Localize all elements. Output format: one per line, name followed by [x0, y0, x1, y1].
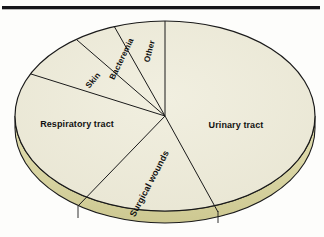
scanned-page: Urinary tract Surgical wounds Respirator… [0, 0, 324, 237]
slice-label-urinary-tract: Urinary tract [209, 120, 264, 130]
pie-chart-svg: Urinary tract Surgical wounds Respirator… [0, 10, 324, 237]
pie-chart-figure: Urinary tract Surgical wounds Respirator… [0, 10, 324, 237]
slice-label-respiratory-tract: Respiratory tract [40, 119, 114, 129]
page-header-strip [0, 0, 324, 10]
